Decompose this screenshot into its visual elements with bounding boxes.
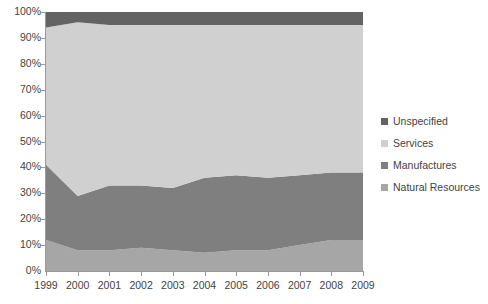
x-axis-tick [141,272,142,276]
y-axis-tick-label: 80% [1,58,41,69]
legend-label: Services [393,137,433,149]
stacked-area-svg [46,12,363,271]
legend-swatch-icon [381,162,388,169]
y-axis-tick-label: 100% [1,6,41,17]
legend-swatch-icon [381,140,388,147]
plot-area [46,12,363,271]
legend-swatch-icon [381,118,388,125]
y-axis-tick-label: 90% [1,32,41,43]
y-axis-labels: 0%10%20%30%40%50%60%70%80%90%100% [0,0,41,304]
x-axis-tick [363,272,364,276]
x-axis-tick [268,272,269,276]
x-axis-tick [236,272,237,276]
legend-item-unspecified[interactable]: Unspecified [381,110,488,132]
x-axis-tick [78,272,79,276]
area-series-services [46,22,363,196]
chart-legend: UnspecifiedServicesManufacturesNatural R… [381,110,488,198]
y-axis-tick-label: 10% [1,239,41,250]
y-axis-tick-label: 20% [1,213,41,224]
y-axis-tick-label: 70% [1,84,41,95]
y-axis-tick-label: 40% [1,161,41,172]
y-axis-tick-label: 60% [1,110,41,121]
legend-label: Unspecified [393,115,448,127]
x-axis-tick-label: 2009 [343,279,383,291]
legend-label: Natural Resources [393,181,480,193]
legend-label: Manufactures [393,159,457,171]
x-axis-tick [109,272,110,276]
chart-screenshot: 0%10%20%30%40%50%60%70%80%90%100% 199920… [0,0,488,304]
legend-item-manufactures[interactable]: Manufactures [381,154,488,176]
y-axis-tick-label: 50% [1,136,41,147]
legend-swatch-icon [381,184,388,191]
legend-item-services[interactable]: Services [381,132,488,154]
x-axis-tick [205,272,206,276]
x-axis-tick [173,272,174,276]
legend-item-natural-resources[interactable]: Natural Resources [381,176,488,198]
y-axis-tick-label: 0% [1,265,41,276]
y-axis-tick-label: 30% [1,187,41,198]
x-axis-tick [46,272,47,276]
x-axis-tick [300,272,301,276]
x-axis-tick [331,272,332,276]
